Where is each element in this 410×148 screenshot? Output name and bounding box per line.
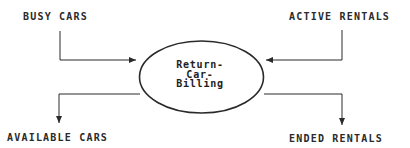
label-available-cars: AVAILABLE CARS xyxy=(7,133,108,143)
label-ended-rentals: ENDED RENTALS xyxy=(289,134,383,144)
label-busy-cars: BUSY CARS xyxy=(23,12,88,22)
flow-available-cars-arrow xyxy=(59,94,140,123)
process-label-line-3: Billing xyxy=(150,79,250,89)
process-label: Return- Car- Billing xyxy=(150,60,250,89)
flow-active-rentals-arrow xyxy=(266,30,342,60)
flow-ended-rentals-arrow xyxy=(264,94,342,125)
data-flow-diagram: BUSY CARS ACTIVE RENTALS AVAILABLE CARS … xyxy=(0,0,410,148)
label-active-rentals: ACTIVE RENTALS xyxy=(289,12,390,22)
flow-busy-cars-arrow xyxy=(60,31,136,60)
